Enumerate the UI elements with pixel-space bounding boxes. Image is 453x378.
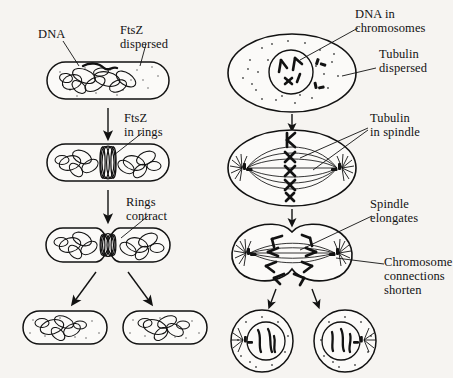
label-chromosome-connections-line2: connections: [384, 270, 445, 284]
label-ftsz-dispersed-line2: dispersed: [120, 38, 168, 52]
label-tubulin-dispersed-line1: Tubulin: [379, 48, 419, 62]
label-spindle-elongates-line2: elongates: [370, 212, 418, 226]
bacterium-daughter-left: [23, 311, 107, 344]
label-spindle-elongates-line1: Spindle: [370, 198, 409, 212]
label-dna-in-chromosomes-line2: chromosomes: [355, 22, 426, 36]
bacterium-stage-3: [46, 228, 170, 262]
figure-canvas: DNA FtsZ dispersed FtsZ in rings Rings c…: [0, 0, 453, 378]
bacterium-daughter-right: [123, 311, 207, 344]
label-tubulin-in-spindle-line2: in spindle: [370, 126, 420, 140]
label-tubulin-in-spindle-line1: Tubulin: [370, 112, 410, 126]
label-rings-contract-line2: contract: [126, 210, 167, 224]
label-chromosome-connections-line1: Chromosome: [384, 256, 452, 270]
eukaryote-stage-1: [228, 34, 356, 112]
eukaryote-daughter-left: [231, 310, 293, 372]
label-ftsz-rings-line1: FtsZ: [124, 112, 147, 126]
label-ftsz-dispersed-line1: FtsZ: [120, 24, 143, 38]
eukaryote-daughter-right: [314, 310, 376, 372]
label-chromosome-connections-line3: shorten: [384, 284, 422, 298]
label-dna: DNA: [38, 28, 65, 42]
label-rings-contract-line1: Rings: [126, 196, 156, 210]
label-tubulin-dispersed-line2: dispersed: [379, 62, 427, 76]
bacterium-stage-1: [47, 62, 169, 99]
label-dna-in-chromosomes-line1: DNA in: [355, 8, 395, 22]
label-ftsz-rings-line2: in rings: [124, 126, 163, 140]
bacterium-stage-2: [47, 144, 169, 181]
